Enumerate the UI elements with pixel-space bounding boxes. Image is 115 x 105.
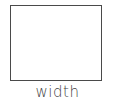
- shape-label: width: [0, 83, 115, 101]
- rectangle-shape: [10, 5, 102, 81]
